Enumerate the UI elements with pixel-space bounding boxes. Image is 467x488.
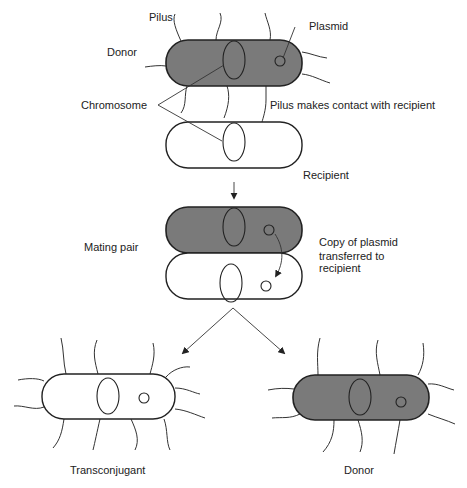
pilus — [174, 14, 181, 41]
recipient-label: Recipient — [303, 169, 349, 181]
mating-pair-label: Mating pair — [84, 241, 139, 253]
donor-label-bottom: Donor — [344, 464, 374, 476]
copy-label-line3: recipient — [319, 262, 361, 274]
pilus-contact-label: Pilus makes contact with recipient — [270, 99, 435, 111]
conjugation-diagram: Pilus Plasmid Donor Chromosome Pilus mak… — [0, 0, 467, 488]
transconjugant-cell — [14, 338, 205, 450]
arrow-to-donor — [233, 308, 284, 353]
mating-pair — [166, 207, 302, 302]
donor-cell-bottom — [268, 338, 455, 454]
chromosome-label: Chromosome — [81, 99, 147, 111]
arrow-to-transconjugant — [183, 308, 233, 353]
donor-label-top: Donor — [107, 46, 137, 58]
pilus-contact — [262, 86, 266, 122]
copy-label-line1: Copy of plasmid — [319, 236, 398, 248]
plasmid-label: Plasmid — [309, 20, 348, 32]
transconjugant-label: Transconjugant — [70, 464, 145, 476]
pilus-label: Pilus — [149, 11, 173, 23]
recipient-cell — [166, 122, 302, 168]
copy-label-line2: transferred to — [319, 250, 384, 262]
